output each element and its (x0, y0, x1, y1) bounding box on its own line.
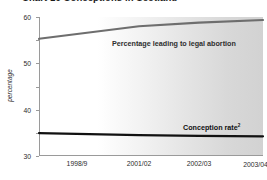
x-tick-label: 2002/03 (187, 160, 212, 167)
y-tick-label: 40 (23, 106, 31, 113)
series-lines (39, 17, 263, 156)
y-tick-mark: 0 (36, 156, 39, 157)
x-tick-label: 1998/9 (67, 160, 88, 167)
chart-title: Chart 10 Conceptions in Scotland (22, 0, 177, 3)
y-tick-label: 50 (23, 60, 31, 67)
x-tick-label: 2003/043 (243, 160, 267, 168)
chart-container: Chart 10 Conceptions in Scotland percent… (0, 0, 267, 180)
y-axis-title: percentage (6, 56, 13, 116)
series-line-conception (39, 133, 263, 136)
plot-area: 0102030405060 1998/92001/022002/032003/0… (39, 17, 263, 156)
y-tick-label: 30 (23, 153, 31, 160)
series-label-abortion: Percentage leading to legal abortion (112, 39, 236, 48)
x-tick-label: 2001/02 (127, 160, 152, 167)
series-line-abortion (39, 20, 263, 39)
series-label-conception: Conception rate2 (183, 123, 240, 132)
y-tick-label: 60 (23, 14, 31, 21)
